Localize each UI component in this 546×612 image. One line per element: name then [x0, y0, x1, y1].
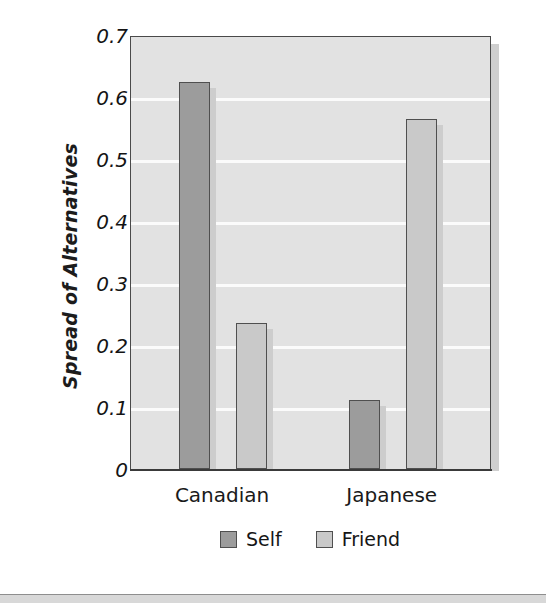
legend-label: Self: [246, 528, 282, 550]
legend-swatch-icon: [316, 531, 333, 548]
legend-swatch-icon: [220, 531, 237, 548]
chart-legend: SelfFriend: [130, 528, 490, 550]
bar-japanese-friend[interactable]: [406, 119, 437, 469]
y-axis-title: Spread of Alternatives: [59, 136, 81, 396]
bar-japanese-self[interactable]: [349, 400, 380, 469]
y-axis-tick-label: 0.3: [84, 272, 128, 296]
y-axis-tick-label: 0.7: [84, 24, 128, 48]
y-axis-tick-labels: 0.70.60.50.40.30.20.10: [84, 36, 128, 470]
y-axis-tick-label: 0.6: [84, 86, 128, 110]
y-axis-tick-label: 0: [84, 458, 128, 482]
y-axis-tick-label: 0.2: [84, 334, 128, 358]
legend-label: Friend: [342, 528, 400, 550]
bar-canadian-friend[interactable]: [236, 323, 267, 469]
x-axis-category-label: Japanese: [302, 483, 482, 507]
x-axis-category-label: Canadian: [132, 483, 312, 507]
y-axis-tick-label: 0.4: [84, 210, 128, 234]
x-axis-line: [130, 469, 492, 471]
y-axis-tick-label: 0.1: [84, 396, 128, 420]
bar-chart-figure: Spread of Alternatives 0.70.60.50.40.30.…: [0, 0, 546, 612]
legend-item-self[interactable]: Self: [220, 528, 282, 550]
y-axis-tick-label: 0.5: [84, 148, 128, 172]
bar-canadian-self[interactable]: [179, 82, 210, 470]
page-bottom-rule: [0, 594, 546, 603]
legend-item-friend[interactable]: Friend: [316, 528, 400, 550]
plot-area: [130, 36, 491, 470]
